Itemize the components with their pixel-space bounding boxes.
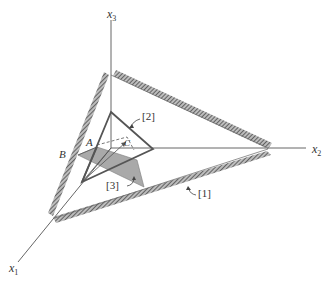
callout-2-label: [2] [142,111,155,122]
x2-axis-label: x2 [312,143,321,158]
x1-axis-label: x1 [9,262,18,277]
point-b-label: B [59,149,66,160]
point-c-label: C [124,139,130,148]
outer-triangle-1 [48,70,272,223]
point-a-label: A [86,137,93,148]
callout-3-label: [3] [106,180,119,191]
x3-axis-label: x3 [107,8,116,23]
callout-1-label: [1] [198,188,211,199]
diagram-figure: x3 x2 x1 A B C [2] [3] [1] [0,0,336,284]
